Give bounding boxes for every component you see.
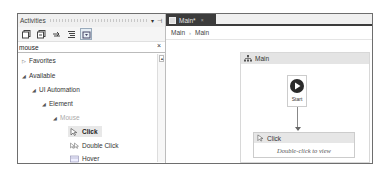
clear-search-icon[interactable]: × bbox=[157, 42, 161, 49]
activity-body: Double-click to view bbox=[254, 143, 354, 157]
expand-arrow-icon[interactable]: ▷ bbox=[22, 58, 29, 64]
activities-title: Activities bbox=[20, 17, 46, 24]
tree-item-hover[interactable]: Hover bbox=[70, 153, 99, 164]
activity-header: Click bbox=[254, 133, 354, 143]
cursor-icon bbox=[70, 128, 79, 136]
drag-grip[interactable] bbox=[50, 19, 147, 22]
document-icon bbox=[169, 17, 176, 24]
collapse-arrow-icon[interactable]: ◢ bbox=[42, 101, 49, 107]
activities-toolbar bbox=[18, 27, 165, 42]
filter-icon[interactable] bbox=[80, 28, 92, 40]
tree-scrollbar[interactable]: ▲ bbox=[157, 54, 165, 162]
play-icon bbox=[290, 79, 304, 93]
refresh-icon[interactable] bbox=[50, 28, 62, 40]
connector-line bbox=[297, 107, 298, 129]
activity-title: Click bbox=[267, 135, 281, 142]
cursor-icon bbox=[257, 134, 264, 143]
collapse-arrow-icon[interactable]: ◢ bbox=[53, 115, 60, 121]
breadcrumb-separator: › bbox=[189, 30, 191, 36]
designer-panel: Main* × Main › Main Main bbox=[166, 14, 372, 163]
flowchart-container[interactable]: Main Start Click bbox=[240, 52, 370, 163]
start-node[interactable]: Start bbox=[287, 75, 307, 107]
tree-item-label: Double Click bbox=[82, 142, 119, 149]
activities-panel: Activities ▾ ⊣ × bbox=[18, 14, 166, 163]
tab-main[interactable]: Main* × bbox=[166, 14, 216, 26]
activities-tree: ▷ Favorites ◢ Available ◢ UI Automation … bbox=[18, 54, 158, 162]
tree-item-label: Favorites bbox=[29, 57, 56, 64]
studio-window: Activities ▾ ⊣ × bbox=[17, 13, 373, 164]
tree-item-mouse[interactable]: ◢ Mouse bbox=[53, 112, 80, 123]
tree-item-label: Available bbox=[29, 72, 55, 79]
dock-icon[interactable]: ⊣ bbox=[157, 17, 162, 24]
click-activity[interactable]: Click Double-click to view bbox=[253, 132, 355, 158]
collapse-arrow-icon[interactable]: ◢ bbox=[22, 73, 29, 79]
breadcrumb-item[interactable]: Main bbox=[171, 29, 185, 36]
tree-item-label: Click bbox=[82, 128, 98, 135]
document-tabs: Main* × bbox=[166, 14, 372, 26]
tree-item-label: Element bbox=[49, 100, 73, 107]
tree-item-click[interactable]: Click bbox=[68, 126, 102, 137]
close-tab-icon[interactable]: × bbox=[201, 17, 204, 23]
tree-item-label: UI Automation bbox=[39, 86, 80, 93]
start-label: Start bbox=[292, 96, 303, 102]
hover-icon bbox=[70, 155, 79, 163]
sort-icon[interactable] bbox=[65, 28, 77, 40]
breadcrumb: Main › Main bbox=[166, 26, 372, 40]
pin-icon[interactable]: ▾ bbox=[151, 17, 154, 24]
designer-canvas[interactable]: Main Start Click bbox=[166, 42, 372, 163]
collapse-arrow-icon[interactable]: ◢ bbox=[32, 87, 39, 93]
double-cursor-icon bbox=[70, 142, 79, 150]
expand-all-icon[interactable] bbox=[20, 28, 32, 40]
scroll-up-icon[interactable]: ▲ bbox=[159, 55, 164, 62]
tree-item-favorites[interactable]: ▷ Favorites bbox=[22, 55, 56, 66]
flowchart-title: Main bbox=[255, 55, 269, 62]
flowchart-header: Main bbox=[241, 53, 369, 64]
search-input[interactable] bbox=[19, 44, 139, 51]
tree-item-double-click[interactable]: Double Click bbox=[70, 140, 119, 151]
flowchart-icon bbox=[244, 55, 252, 63]
collapse-all-icon[interactable] bbox=[35, 28, 47, 40]
tree-item-label: Hover bbox=[82, 155, 99, 162]
tab-label: Main* bbox=[179, 17, 196, 24]
tree-item-ui-automation[interactable]: ◢ UI Automation bbox=[32, 84, 80, 95]
tree-item-available[interactable]: ◢ Available bbox=[22, 70, 55, 81]
connector-arrow-icon bbox=[295, 127, 301, 131]
breadcrumb-item[interactable]: Main bbox=[195, 29, 209, 36]
activities-search: × bbox=[18, 42, 165, 53]
tree-item-label: Mouse bbox=[60, 114, 80, 121]
activities-title-bar: Activities ▾ ⊣ bbox=[18, 14, 165, 27]
tree-item-element[interactable]: ◢ Element bbox=[42, 98, 73, 109]
